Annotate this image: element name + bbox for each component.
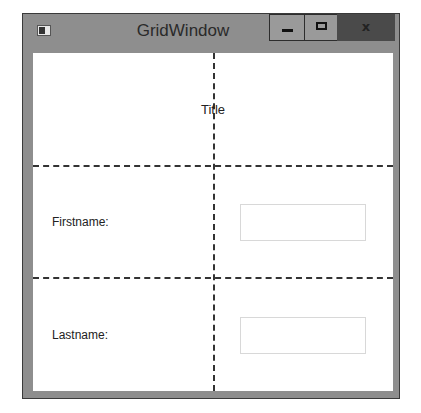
maximize-icon <box>316 22 327 30</box>
grid-row-divider-2 <box>33 277 393 279</box>
close-button[interactable]: x <box>337 14 395 41</box>
lastname-input[interactable] <box>240 317 366 354</box>
title-label: Title <box>163 102 263 117</box>
grid-row-divider-1 <box>33 165 393 167</box>
lastname-label: Lastname: <box>52 328 108 342</box>
firstname-label: Firstname: <box>52 215 109 229</box>
minimize-icon <box>282 29 293 32</box>
close-icon: x <box>338 19 394 34</box>
title-bar[interactable]: GridWindow x <box>23 14 399 53</box>
grid-window: GridWindow x Title Firstname: Lastname: <box>22 13 400 399</box>
firstname-input[interactable] <box>240 204 366 241</box>
client-area: Title Firstname: Lastname: <box>33 53 393 391</box>
maximize-button[interactable] <box>304 14 338 41</box>
minimize-button[interactable] <box>269 14 305 41</box>
window-title: GridWindow <box>93 21 273 41</box>
app-window-icon[interactable] <box>37 25 51 36</box>
